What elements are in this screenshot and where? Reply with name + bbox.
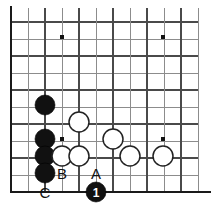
point-label-c: C [40, 184, 51, 201]
star-point-lower-right [161, 137, 165, 141]
star-point-upper-left [60, 35, 64, 39]
point-label-a: A [91, 165, 101, 182]
star-point-lower-left [60, 137, 64, 141]
white-stone-3 [69, 146, 89, 166]
white-stone-1 [69, 112, 89, 132]
black-stone-4 [35, 163, 55, 183]
white-stone-6 [153, 146, 173, 166]
star-point-upper-right [161, 35, 165, 39]
black-stone-1 [35, 95, 55, 115]
point-label-b: B [57, 165, 67, 182]
move-stone-1-number: 1 [93, 186, 100, 200]
numbered-stones: 1 [86, 182, 106, 202]
white-stone-4 [103, 129, 123, 149]
goban-canvas: BAC 1 [0, 0, 211, 208]
white-stone-5 [120, 146, 140, 166]
stones [35, 95, 173, 183]
go-board-diagram: BAC 1 [0, 0, 211, 208]
